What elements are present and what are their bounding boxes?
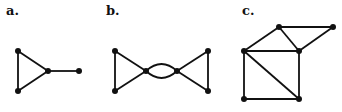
vertex <box>15 88 21 94</box>
edge <box>244 27 279 51</box>
vertex <box>330 24 336 30</box>
edge <box>18 71 48 91</box>
vertex <box>174 68 180 74</box>
vertex <box>143 68 149 74</box>
edge <box>244 51 299 99</box>
vertex <box>205 48 211 54</box>
vertex <box>112 48 118 54</box>
graph-diagram <box>0 0 342 112</box>
vertex <box>241 48 247 54</box>
edge <box>177 71 208 91</box>
vertex <box>205 88 211 94</box>
vertex <box>15 48 21 54</box>
vertex <box>296 96 302 102</box>
vertex <box>241 96 247 102</box>
curved-edge <box>146 71 177 78</box>
graph-a <box>15 48 82 94</box>
graph-c <box>241 24 336 102</box>
graph-b <box>112 48 211 94</box>
curved-edge <box>146 64 177 71</box>
vertex <box>296 48 302 54</box>
edge <box>299 27 333 51</box>
vertex <box>112 88 118 94</box>
vertex <box>45 68 51 74</box>
edge <box>279 27 299 51</box>
edge <box>18 51 48 71</box>
vertex <box>76 68 82 74</box>
edge <box>115 51 146 71</box>
vertex <box>276 24 282 30</box>
edge <box>115 71 146 91</box>
edge <box>177 51 208 71</box>
